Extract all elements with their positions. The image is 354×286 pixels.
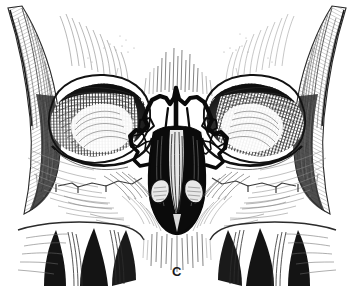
right-orbit [198, 74, 309, 169]
anatomical-figure-canvas: C [0, 0, 354, 286]
figure-label-c: C [0, 264, 354, 280]
nasal-aperture [149, 126, 205, 234]
skull-illustration [0, 0, 354, 286]
inferior-turbinate-left [151, 179, 170, 203]
inferior-turbinate-right [185, 179, 204, 203]
